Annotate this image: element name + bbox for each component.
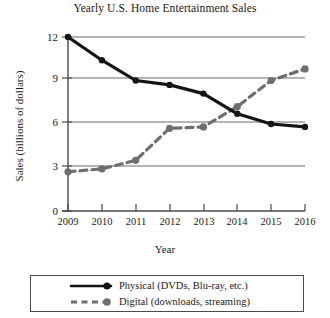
data-point xyxy=(234,111,240,117)
gridlines xyxy=(68,37,305,166)
data-point xyxy=(98,165,105,172)
data-point xyxy=(99,57,105,63)
legend-item-digital: Digital (downloads, streaming) xyxy=(31,294,305,310)
legend-label-digital: Digital (downloads, streaming) xyxy=(119,294,250,310)
y-tick-12: 12 xyxy=(30,31,58,43)
data-point xyxy=(302,124,308,130)
chart-figure: Yearly U.S. Home Entertainment Sales Sal… xyxy=(0,0,330,318)
data-point xyxy=(65,34,71,40)
data-point xyxy=(133,77,139,83)
data-point xyxy=(132,157,139,164)
legend-swatch-digital-icon xyxy=(69,294,115,310)
data-point xyxy=(268,77,275,84)
data-point xyxy=(200,90,206,96)
plot-area: 12 9 6 3 0 2009 2010 2011 2012 2013 2014… xyxy=(0,0,330,270)
y-tick-9: 9 xyxy=(30,72,58,84)
legend-item-physical: Physical (DVDs, Blu-ray, etc.) xyxy=(31,278,305,294)
chart-legend: Physical (DVDs, Blu-ray, etc.) Digital (… xyxy=(30,275,304,312)
data-point xyxy=(268,121,274,127)
y-axis-ticks xyxy=(62,37,72,211)
y-tick-6: 6 xyxy=(30,116,58,128)
data-point xyxy=(166,82,172,88)
y-tick-3: 3 xyxy=(30,160,58,172)
data-point xyxy=(166,125,173,132)
data-point xyxy=(64,168,71,175)
data-point xyxy=(301,65,308,72)
legend-label-physical: Physical (DVDs, Blu-ray, etc.) xyxy=(119,278,248,294)
x-tick-2016: 2016 xyxy=(285,216,325,227)
data-point xyxy=(234,103,241,110)
x-axis-ticks xyxy=(68,204,305,211)
legend-swatch-physical-icon xyxy=(69,278,115,294)
series-digital xyxy=(64,65,308,175)
x-axis-label: Year xyxy=(0,243,330,255)
data-point xyxy=(200,123,207,130)
